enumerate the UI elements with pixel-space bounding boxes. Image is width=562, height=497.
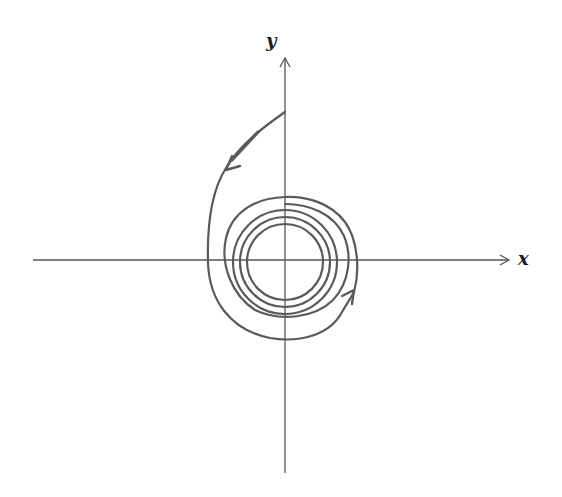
y-axis: y <box>265 30 290 473</box>
trajectory-arrow-upper-left-shaft <box>232 132 258 160</box>
x-axis: x <box>33 248 529 269</box>
spiral-trajectory <box>208 112 357 339</box>
phase-portrait-diagram: x y <box>0 0 562 497</box>
y-axis-label: y <box>265 30 278 51</box>
x-axis-label: x <box>517 248 529 269</box>
